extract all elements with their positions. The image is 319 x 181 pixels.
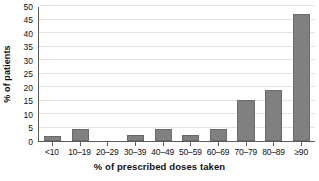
x-tick-label: 30–39 xyxy=(121,147,149,159)
x-tick-mark xyxy=(287,142,315,146)
bar xyxy=(155,129,172,141)
x-axis-title: % of prescribed doses taken xyxy=(0,161,319,172)
y-axis-title: % of patients xyxy=(0,0,14,148)
bar-slot xyxy=(177,7,205,141)
bar-slot xyxy=(149,7,177,141)
x-tick-label: 40–49 xyxy=(149,147,177,159)
y-tick-label: 40 xyxy=(24,30,33,39)
bar xyxy=(127,135,144,141)
bar-slot xyxy=(232,7,260,141)
y-tick-label: 30 xyxy=(24,57,33,66)
x-tick-mark xyxy=(121,142,149,146)
y-tick-label: 25 xyxy=(24,70,33,79)
y-tick-label: 15 xyxy=(24,97,33,106)
x-tick-mark xyxy=(232,142,260,146)
y-tick-label: 20 xyxy=(24,84,33,93)
bar xyxy=(265,90,282,141)
x-axis-ticks xyxy=(38,142,315,146)
bar-slot xyxy=(94,7,122,141)
x-tick-label: <10 xyxy=(38,147,66,159)
bar-slot xyxy=(260,7,288,141)
x-tick-mark xyxy=(66,142,94,146)
x-tick-label: 10–19 xyxy=(66,147,94,159)
bar xyxy=(182,135,199,141)
x-tick-label: 60–69 xyxy=(204,147,232,159)
y-axis-title-text: % of patients xyxy=(2,45,12,102)
x-tick-mark xyxy=(38,142,66,146)
x-tick-label: 80–89 xyxy=(260,147,288,159)
bar-slot xyxy=(287,7,315,141)
y-tick-label: 50 xyxy=(24,3,33,12)
bar xyxy=(44,136,61,141)
y-tick-label: 35 xyxy=(24,43,33,52)
bar xyxy=(210,129,227,141)
bar xyxy=(237,100,254,141)
x-tick-mark xyxy=(93,142,121,146)
x-tick-label: ≥90 xyxy=(287,147,315,159)
x-axis-tick-labels: <1010–1920–2930–3940–4950–5960–6970–7980… xyxy=(38,147,315,159)
y-tick-label: 5 xyxy=(28,124,33,133)
bar-chart: % of patients 05101520253035404550 <1010… xyxy=(0,0,319,181)
x-tick-mark xyxy=(177,142,205,146)
y-tick-label: 0 xyxy=(28,138,33,147)
x-tick-mark xyxy=(260,142,288,146)
bar xyxy=(72,129,89,141)
gridline xyxy=(39,5,315,6)
bar-slot xyxy=(39,7,67,141)
bars-layer xyxy=(39,7,315,141)
bar-slot xyxy=(67,7,95,141)
bar-slot xyxy=(122,7,150,141)
x-tick-label: 70–79 xyxy=(232,147,260,159)
plot-area xyxy=(38,7,315,142)
bar-slot xyxy=(205,7,233,141)
x-tick-mark xyxy=(149,142,177,146)
x-tick-label: 20–29 xyxy=(93,147,121,159)
y-tick-label: 10 xyxy=(24,111,33,120)
x-tick-label: 50–59 xyxy=(177,147,205,159)
x-tick-mark xyxy=(204,142,232,146)
y-axis-tick-labels: 05101520253035404550 xyxy=(14,0,35,148)
bar xyxy=(293,14,310,141)
y-tick-label: 45 xyxy=(24,16,33,25)
